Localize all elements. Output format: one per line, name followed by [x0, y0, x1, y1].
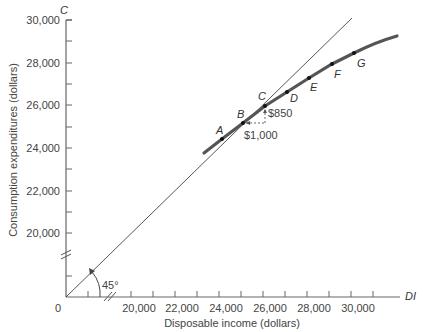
point-g: [352, 51, 356, 55]
y-tick-22000: 22,000: [26, 185, 60, 197]
angle-arc: [92, 272, 100, 297]
origin-label: 0: [55, 302, 61, 314]
data-points: [220, 51, 356, 141]
y-tick-28000: 28,000: [26, 57, 60, 69]
point-a: [220, 137, 224, 141]
consumption-function-curve: [204, 36, 397, 153]
point-label-a: A: [215, 124, 223, 136]
y-tick-24000: 24,000: [26, 142, 60, 154]
y-axis-title: Consumption expenditures (dollars): [7, 63, 19, 237]
point-label-d: D: [290, 92, 298, 104]
delta-c-label: $850: [268, 107, 292, 119]
point-label-g: G: [357, 57, 366, 69]
y-axis-ticks: [66, 20, 72, 276]
point-label-f: F: [334, 68, 342, 80]
consumption-function-chart: A B C D E F G $850 $1,000 45° 30,000 28,…: [0, 0, 431, 332]
x-tick-26000: 26,000: [253, 302, 287, 314]
delta-di-label: $1,000: [244, 129, 278, 141]
point-f: [330, 62, 334, 66]
point-label-e: E: [310, 81, 318, 93]
angle-label: 45°: [102, 279, 119, 291]
y-tick-20000: 20,000: [26, 227, 60, 239]
arrow-up-icon: [263, 109, 267, 113]
point-c: [263, 104, 267, 108]
y-tick-30000: 30,000: [26, 14, 60, 26]
point-e: [307, 76, 311, 80]
point-d: [285, 90, 289, 94]
45-degree-line: [66, 18, 352, 297]
x-axis-title: Disposable income (dollars): [164, 317, 300, 329]
y-tick-26000: 26,000: [26, 99, 60, 111]
point-label-b: B: [237, 108, 244, 120]
x-axis-ticks: [88, 291, 373, 297]
point-b: [241, 121, 245, 125]
x-tick-30000: 30,000: [341, 302, 375, 314]
x-axis-symbol: DI: [405, 290, 416, 302]
x-tick-22000: 22,000: [165, 302, 199, 314]
y-axis-symbol: C: [60, 4, 68, 16]
x-tick-28000: 28,000: [297, 302, 331, 314]
x-tick-20000: 20,000: [122, 302, 156, 314]
point-label-c: C: [258, 90, 266, 102]
x-tick-24000: 24,000: [209, 302, 243, 314]
